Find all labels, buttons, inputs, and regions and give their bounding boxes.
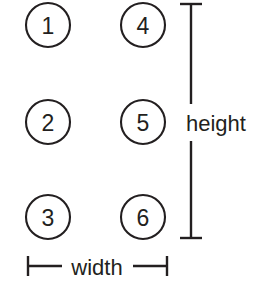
node-4-label: 4 [137,13,150,39]
node-6: 6 [121,195,165,239]
node-2: 2 [26,100,70,144]
node-2-label: 2 [42,110,55,136]
node-6-label: 6 [137,205,150,231]
dimension-diagram: 1 2 3 4 5 6 [0,0,256,282]
node-5-label: 5 [137,110,150,136]
width-dimension-label: width [70,255,122,280]
width-dimension-group: width [28,255,167,280]
node-3-label: 3 [42,205,55,231]
node-1-label: 1 [42,13,55,39]
node-3: 3 [26,195,70,239]
diagram-canvas: 1 2 3 4 5 6 [0,0,256,282]
node-1: 1 [26,3,70,47]
node-5: 5 [121,100,165,144]
height-dimension-label: height [186,111,246,136]
node-group: 1 2 3 4 5 6 [26,3,165,239]
node-4: 4 [121,3,165,47]
height-dimension-group: height [180,4,246,238]
